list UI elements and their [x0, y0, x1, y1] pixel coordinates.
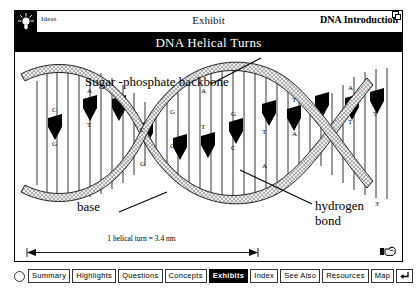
nav-button-resources[interactable]: Resources — [322, 269, 369, 283]
base-letter: T — [87, 121, 91, 129]
exhibit-screen: Ideas Exhibit DNA Introduction DNA Helic… — [0, 0, 417, 300]
nav-button-see-also[interactable]: See Also — [280, 269, 320, 283]
base-letter: T — [201, 123, 205, 131]
base-letter: G — [231, 110, 236, 118]
label-scale-helical-turn: 1 helical turn = 3.4 nm — [25, 234, 258, 243]
base-letter: A — [292, 130, 297, 138]
base-letter: T — [262, 128, 266, 136]
base-letter: C — [140, 126, 145, 134]
nav-button-summary[interactable]: Summary — [28, 269, 70, 283]
pointing-hand-icon[interactable] — [380, 246, 396, 257]
nav-button-concepts[interactable]: Concepts — [165, 269, 207, 283]
label-hydrogen-bond-line1: hydrogen — [315, 198, 364, 213]
nav-button-highlights[interactable]: Highlights — [72, 269, 116, 283]
base-letter: G — [52, 140, 57, 148]
base-letter: G — [170, 108, 175, 116]
exhibit-banner-title: DNA Helical Turns — [15, 33, 402, 52]
base-letter: A — [262, 162, 267, 170]
nav-button-map[interactable]: Map — [371, 269, 395, 283]
window-resize-icon[interactable] — [392, 11, 401, 20]
nav-button-return[interactable] — [396, 269, 413, 283]
nav-button-exhibits[interactable]: Exhibits — [209, 269, 249, 283]
bottom-navigation-bar: Summary Highlights Questions Concepts Ex… — [14, 268, 403, 284]
label-base: base — [77, 199, 100, 215]
nav-button-index[interactable]: Index — [250, 269, 278, 283]
base-letter: C — [231, 144, 236, 152]
label-5-prime-end: 5' — [373, 110, 378, 118]
radio-circle-icon[interactable] — [14, 271, 25, 282]
dna-diagram[interactable]: C G A T A T G C T A C G G C T A A T Suga… — [15, 52, 402, 261]
base-letter: C — [170, 142, 175, 150]
base-letter: T — [348, 118, 352, 126]
return-arrow-icon — [399, 271, 410, 281]
nav-button-questions[interactable]: Questions — [118, 269, 162, 283]
base-letter: C — [52, 106, 57, 114]
base-letter: G — [140, 160, 145, 168]
label-hydrogen-bond-line2: bond — [315, 213, 341, 228]
label-hydrogen-bond: hydrogen bond — [315, 198, 364, 228]
label-3-prime-end: 3' — [375, 200, 380, 208]
exhibit-window: Ideas Exhibit DNA Introduction DNA Helic… — [14, 10, 403, 262]
base-letter: A — [348, 84, 353, 92]
base-letter: T — [292, 96, 296, 104]
window-header: Ideas Exhibit DNA Introduction — [15, 11, 402, 33]
header-right-title: DNA Introduction — [320, 14, 398, 25]
label-sugar-phosphate-backbone: Sugar -phosphate backbone — [85, 74, 229, 90]
